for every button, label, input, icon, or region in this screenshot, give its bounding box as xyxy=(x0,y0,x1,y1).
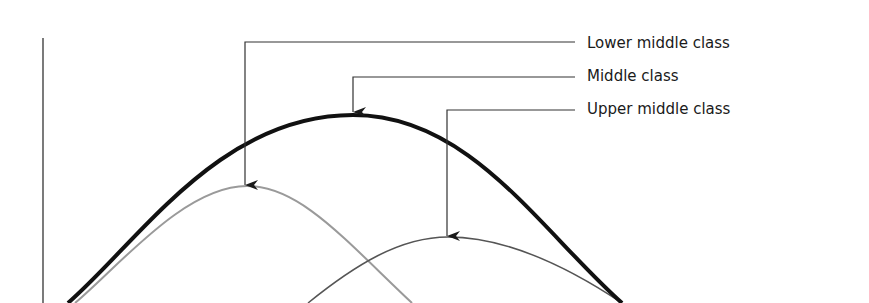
upper-middle-class-leader xyxy=(447,110,575,236)
lower-middle-class-label: Lower middle class xyxy=(587,36,730,51)
lower-middle-class-leader xyxy=(245,42,575,185)
middle-class-leader xyxy=(353,77,575,112)
upper-middle-class-curve xyxy=(308,237,622,303)
middle-class-label: Middle class xyxy=(587,69,679,84)
bell-curve-diagram xyxy=(0,0,869,303)
upper-middle-class-label: Upper middle class xyxy=(587,102,730,117)
